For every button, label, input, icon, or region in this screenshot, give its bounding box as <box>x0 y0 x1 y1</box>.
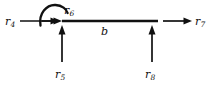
label-r4: r4 <box>5 12 15 29</box>
diagram-canvas <box>0 0 214 100</box>
label-r5-subscript: 5 <box>60 73 65 82</box>
label-beam-length-b: b <box>101 26 108 37</box>
label-r8: r8 <box>145 65 155 82</box>
force-arrow-r8 <box>149 25 156 62</box>
force-arrow-r7-head <box>184 17 193 24</box>
force-arrow-r5-head <box>59 25 66 35</box>
free-body-diagram: r4 r6 r7 r5 r8 b <box>0 0 214 100</box>
label-r6: r6 <box>64 1 74 18</box>
label-r4-subscript: 4 <box>10 20 15 29</box>
label-r7-subscript: 7 <box>200 20 205 29</box>
force-arrow-r7 <box>163 17 192 24</box>
force-arrow-r8-head <box>149 25 156 35</box>
force-arrow-r5 <box>59 25 66 62</box>
label-r8-subscript: 8 <box>150 73 155 82</box>
label-r5: r5 <box>55 65 65 82</box>
label-r7: r7 <box>195 12 205 29</box>
label-r6-subscript: 6 <box>69 9 74 18</box>
